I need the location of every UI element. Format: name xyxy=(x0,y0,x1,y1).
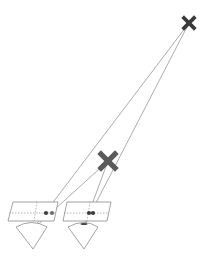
near-point-x-icon xyxy=(101,154,115,168)
sight-ray xyxy=(32,23,189,230)
eyes xyxy=(16,223,98,250)
pupil-icon xyxy=(81,223,88,225)
projection-dot xyxy=(91,211,95,215)
sight-rays xyxy=(32,23,189,230)
left-plane xyxy=(8,202,58,221)
left-eye-icon xyxy=(16,223,47,250)
right-eye-icon xyxy=(68,223,98,250)
far-point-x-icon xyxy=(184,18,194,28)
right-plane xyxy=(63,202,111,221)
projection-dot xyxy=(50,211,54,215)
projection-dot xyxy=(87,211,91,215)
stereo-diagram xyxy=(0,0,206,263)
projection-dot xyxy=(44,211,48,215)
sight-ray xyxy=(84,23,189,226)
